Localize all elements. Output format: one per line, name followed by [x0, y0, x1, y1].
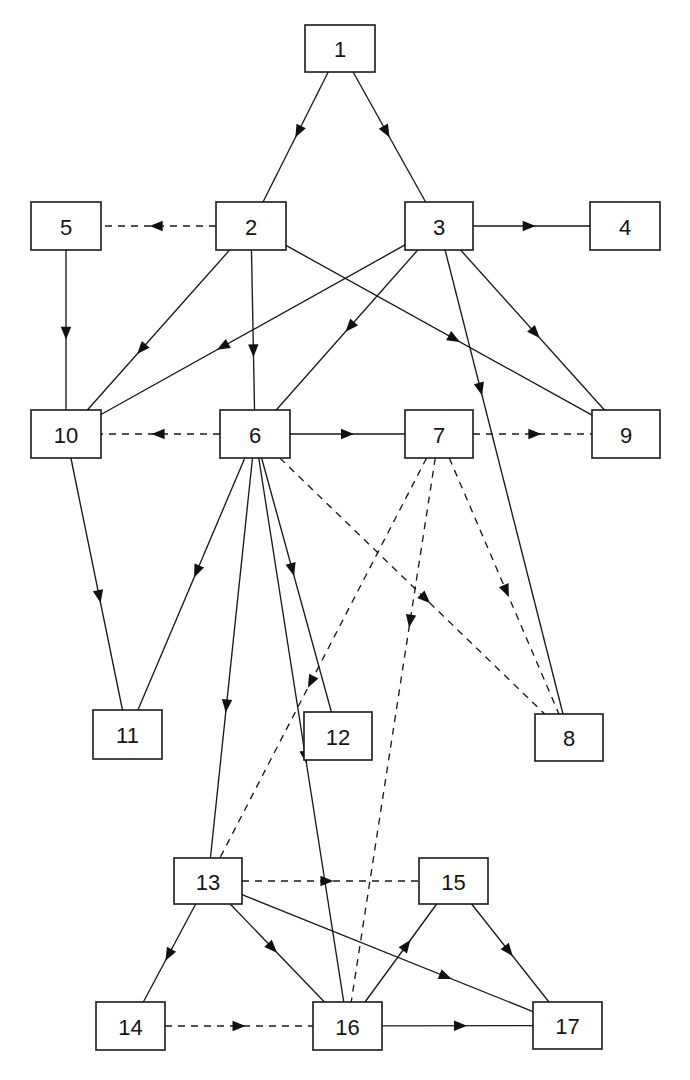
node-label-2: 2	[245, 215, 257, 240]
arrow-head-7-to-13	[308, 674, 319, 688]
arrow-head-1-to-2	[295, 124, 305, 138]
arrow-head-13-to-14	[165, 947, 176, 961]
edge-6-to-13	[210, 458, 252, 858]
node-label-14: 14	[118, 1015, 142, 1040]
edge-3-to-10	[101, 245, 405, 415]
graph-svg: 1234567891011121314151617	[0, 0, 690, 1080]
arrow-head-6-to-13	[222, 699, 232, 712]
node-9[interactable]: 9	[592, 410, 660, 458]
graph-diagram-canvas: 1234567891011121314151617	[0, 0, 690, 1080]
arrow-head-3-to-4	[523, 221, 536, 231]
edge-3-to-8	[445, 250, 563, 714]
node-13[interactable]: 13	[174, 858, 242, 904]
node-label-5: 5	[60, 215, 72, 240]
node-16[interactable]: 16	[313, 1002, 382, 1050]
arrow-head-6-to-8	[417, 591, 430, 604]
edge-2-to-9	[286, 245, 592, 415]
node-label-17: 17	[555, 1014, 579, 1039]
node-7[interactable]: 7	[405, 410, 473, 458]
node-label-6: 6	[249, 423, 261, 448]
node-label-11: 11	[116, 723, 139, 748]
arrow-head-14-to-16	[233, 1021, 246, 1031]
arrow-head-5-to-10	[61, 327, 71, 340]
arrow-head-6-to-12	[286, 562, 296, 576]
edge-2-to-10	[87, 250, 229, 410]
node-10[interactable]: 10	[31, 410, 101, 458]
node-1[interactable]: 1	[305, 25, 375, 72]
arrow-head-2-to-9	[446, 331, 460, 342]
edge-13-to-17	[242, 895, 533, 1012]
node-8[interactable]: 8	[535, 714, 603, 761]
arrow-head-7-to-9	[528, 429, 541, 439]
node-label-12: 12	[326, 725, 350, 750]
node-label-7: 7	[433, 423, 445, 448]
edge-layer	[61, 72, 605, 1031]
edge-13-to-16	[230, 904, 324, 1002]
node-label-15: 15	[441, 870, 465, 895]
node-label-1: 1	[334, 37, 346, 62]
node-label-3: 3	[433, 215, 445, 240]
node-label-8: 8	[563, 726, 575, 751]
node-12[interactable]: 12	[304, 712, 372, 760]
edge-16-to-15	[365, 904, 437, 1002]
edge-7-to-13	[220, 458, 427, 858]
arrow-head-16-to-15	[399, 940, 411, 954]
node-label-16: 16	[335, 1015, 359, 1040]
edge-6-to-11	[138, 458, 245, 710]
node-2[interactable]: 2	[216, 202, 286, 250]
node-5[interactable]: 5	[31, 202, 101, 250]
node-label-9: 9	[620, 423, 632, 448]
arrow-head-15-to-17	[501, 943, 513, 956]
node-17[interactable]: 17	[533, 1002, 602, 1049]
arrow-head-2-to-5	[150, 221, 163, 231]
arrow-head-13-to-17	[438, 969, 452, 979]
node-layer: 1234567891011121314151617	[31, 25, 660, 1050]
arrow-head-3-to-8	[474, 382, 484, 396]
node-14[interactable]: 14	[96, 1002, 165, 1050]
node-6[interactable]: 6	[220, 410, 290, 458]
arrow-head-6-to-11	[194, 563, 204, 577]
arrow-head-10-to-11	[93, 589, 103, 603]
node-3[interactable]: 3	[405, 202, 473, 250]
arrow-head-7-to-16	[406, 614, 416, 628]
arrow-head-16-to-17	[454, 1021, 467, 1031]
arrow-head-2-to-6	[248, 344, 258, 357]
edge-6-to-12	[262, 458, 332, 712]
node-label-4: 4	[619, 215, 631, 240]
arrow-head-6-to-7	[341, 429, 354, 439]
arrow-head-6-to-10	[152, 429, 165, 439]
node-label-10: 10	[54, 423, 78, 448]
node-11[interactable]: 11	[93, 710, 162, 759]
arrow-head-1-to-3	[379, 124, 390, 138]
edge-10-to-11	[71, 458, 123, 710]
arrow-head-7-to-8	[499, 583, 509, 597]
arrow-head-13-to-15	[320, 876, 333, 886]
node-15[interactable]: 15	[419, 858, 488, 904]
node-4[interactable]: 4	[590, 202, 660, 250]
node-label-13: 13	[196, 870, 220, 895]
arrow-head-3-to-10	[217, 339, 231, 350]
